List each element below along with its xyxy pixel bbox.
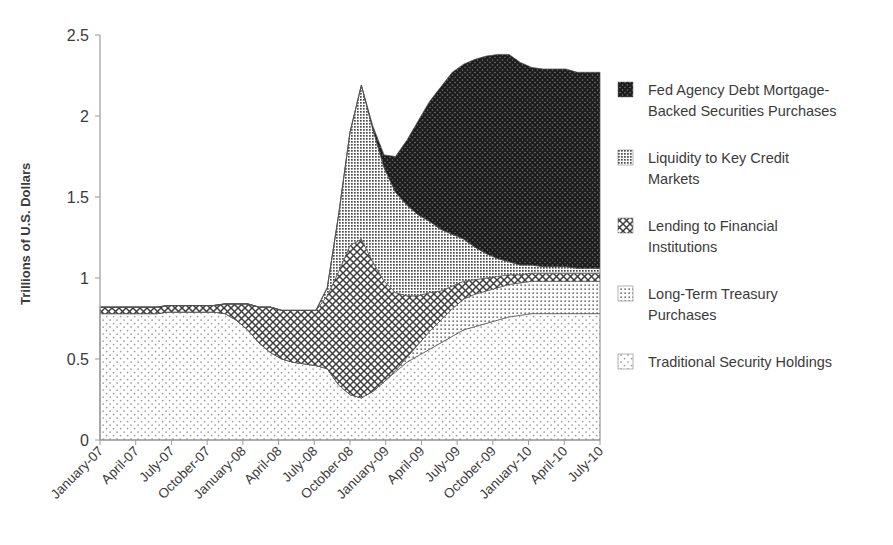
- legend-label[interactable]: Liquidity to Key Credit: [648, 150, 789, 166]
- legend-label[interactable]: Traditional Security Holdings: [648, 354, 832, 370]
- legend-swatch[interactable]: [618, 82, 633, 97]
- legend-swatch[interactable]: [618, 218, 633, 233]
- legend-swatch[interactable]: [618, 354, 633, 369]
- legend-label-line2[interactable]: Markets: [648, 171, 700, 187]
- y-tick-label: 2.5: [67, 27, 89, 44]
- legend-label-line2[interactable]: Purchases: [648, 307, 717, 323]
- legend-label[interactable]: Long-Term Treasury: [648, 286, 778, 302]
- chart-container: Trillions of U.S. Dollars 00.511.522.5 J…: [0, 0, 893, 545]
- y-axis-title: Trillions of U.S. Dollars: [18, 163, 33, 305]
- fed-balance-sheet-area-chart: Trillions of U.S. Dollars 00.511.522.5 J…: [0, 0, 893, 545]
- y-tick-label: 1: [80, 270, 89, 287]
- y-tick-label: 0: [80, 432, 89, 449]
- y-tick-label: 0.5: [67, 351, 89, 368]
- y-tick-label: 1.5: [67, 189, 89, 206]
- legend-swatch[interactable]: [618, 150, 633, 165]
- legend-label[interactable]: Lending to Financial: [648, 218, 778, 234]
- legend-label[interactable]: Fed Agency Debt Mortgage-: [648, 82, 830, 98]
- y-tick-label: 2: [80, 108, 89, 125]
- legend-label-line2[interactable]: Institutions: [648, 239, 717, 255]
- legend-label-line2[interactable]: Backed Securities Purchases: [648, 103, 837, 119]
- legend-swatch[interactable]: [618, 286, 633, 301]
